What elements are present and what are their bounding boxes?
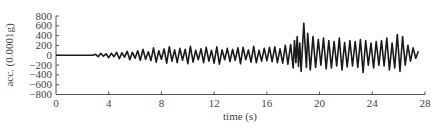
y-axis-label: acc. (0.0001g) xyxy=(3,23,16,87)
series xyxy=(56,23,418,72)
x-tick-label: 20 xyxy=(314,97,326,109)
y-tick-label: −800 xyxy=(29,88,52,100)
x-tick-label: 4 xyxy=(106,97,112,109)
x-tick-label: 8 xyxy=(159,97,165,109)
x-tick-label: 16 xyxy=(261,97,273,109)
acceleration-line xyxy=(56,23,418,72)
x-tick-label: 12 xyxy=(209,97,220,109)
x-tick-label: 0 xyxy=(53,97,59,109)
x-tick-label: 28 xyxy=(420,97,432,109)
x-axis-label: time (s) xyxy=(223,110,257,123)
acceleration-chart: 8006004002000−200−400−600−80004812162024… xyxy=(0,0,448,128)
x-tick-label: 24 xyxy=(367,97,379,109)
